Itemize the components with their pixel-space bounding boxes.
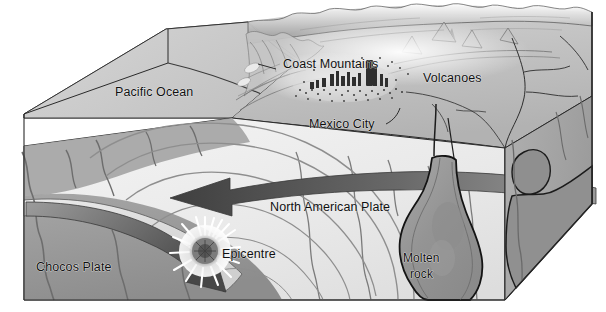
label-chocos-plate: Chocos Plate <box>36 260 112 274</box>
label-coast-mountains: Coast Mountains <box>283 57 378 71</box>
figure-canvas: Pacific Ocean Coast Mountains Volcanoes … <box>0 0 606 312</box>
subduction-block-diagram: Pacific Ocean Coast Mountains Volcanoes … <box>0 0 606 312</box>
right-face-magma-blob-a <box>512 150 550 195</box>
label-epicentre: Epicentre <box>222 247 276 261</box>
label-volcanoes: Volcanoes <box>423 71 482 85</box>
label-pacific-ocean: Pacific Ocean <box>115 85 193 99</box>
label-molten-rock-line2: rock <box>410 267 434 281</box>
label-molten-rock-line1: Molten <box>403 251 440 265</box>
label-mexico-city: Mexico City <box>309 117 375 131</box>
label-north-american-plate: North American Plate <box>270 200 390 214</box>
